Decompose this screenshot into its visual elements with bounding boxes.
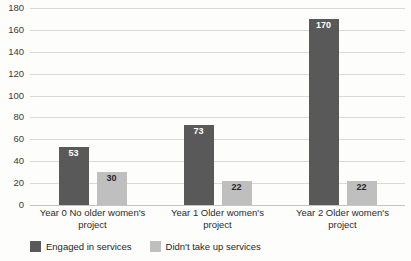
bar-chart: 020406080100120140160180 5330732217022 Y… [0,0,411,261]
gridline [30,52,405,53]
y-axis: 020406080100120140160180 [0,8,30,205]
category-label-line: Year 1 Older women's [155,207,280,219]
bar-value-label: 22 [347,183,377,193]
bar[interactable]: 22 [222,181,252,205]
bar[interactable]: 30 [97,172,127,205]
category-label-line: project [155,219,280,231]
y-axis-tick-label: 40 [0,156,24,166]
category-axis-labels: Year 0 No older women'sprojectYear 1 Old… [30,207,405,235]
category-label-line: project [280,219,405,231]
legend-swatch-icon [30,241,41,252]
legend-item[interactable]: Engaged in services [30,241,132,252]
gridline [30,117,405,118]
y-axis-tick-label: 140 [0,47,24,57]
gridline [30,8,405,9]
category-label: Year 0 No older women'sproject [30,207,155,231]
bar[interactable]: 22 [347,181,377,205]
bar[interactable]: 170 [309,19,339,205]
y-axis-tick-label: 0 [0,200,24,210]
legend-item[interactable]: Didn't take up services [150,241,261,252]
y-axis-tick-label: 160 [0,25,24,35]
gridline [30,96,405,97]
category-label-line: project [30,219,155,231]
chart-legend: Engaged in servicesDidn't take up servic… [30,238,405,254]
bar-value-label: 53 [59,149,89,159]
category-label: Year 2 Older women'sproject [280,207,405,231]
y-axis-tick-label: 80 [0,113,24,123]
y-axis-tick-label: 180 [0,3,24,13]
category-label-line: Year 2 Older women's [280,207,405,219]
y-axis-tick-label: 100 [0,91,24,101]
bar-value-label: 170 [309,21,339,31]
legend-swatch-icon [150,241,161,252]
category-label: Year 1 Older women'sproject [155,207,280,231]
gridline [30,30,405,31]
category-label-line: Year 0 No older women's [30,207,155,219]
legend-label: Engaged in services [46,241,132,252]
gridline [30,74,405,75]
axis-baseline [30,205,405,206]
y-axis-tick-label: 60 [0,135,24,145]
bar[interactable]: 73 [184,125,214,205]
y-axis-tick-label: 20 [0,178,24,188]
plot-area: 5330732217022 [30,8,405,205]
bar-value-label: 73 [184,127,214,137]
y-axis-tick-label: 120 [0,69,24,79]
gridline [30,139,405,140]
bar-value-label: 22 [222,183,252,193]
legend-label: Didn't take up services [166,241,261,252]
bar-value-label: 30 [97,174,127,184]
bar[interactable]: 53 [59,147,89,205]
